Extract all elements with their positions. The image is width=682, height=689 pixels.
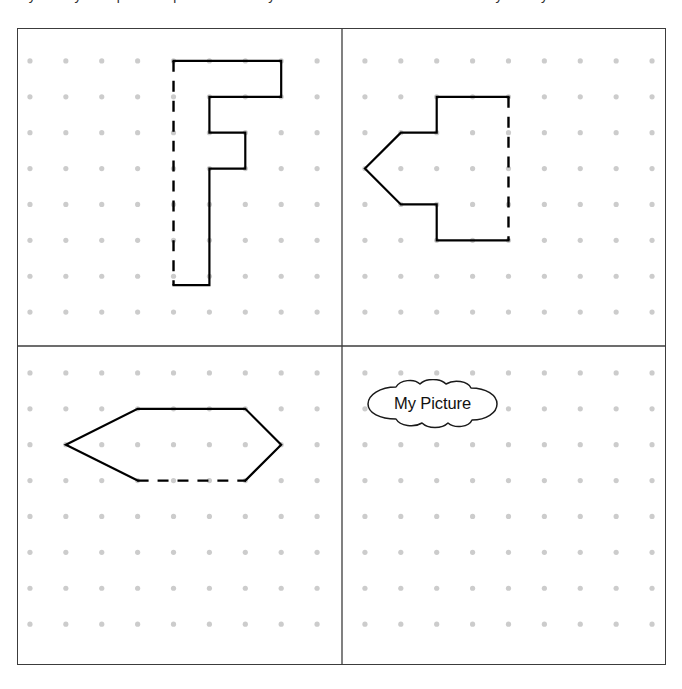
grid-dot — [649, 310, 654, 315]
grid-dot — [63, 586, 68, 591]
grid-dot — [649, 406, 654, 411]
grid-dot — [614, 622, 619, 627]
grid-dot — [578, 202, 583, 207]
grid-dot — [434, 442, 439, 447]
grid-dot — [578, 238, 583, 243]
grid-dot — [542, 94, 547, 99]
grid-dot — [135, 58, 140, 63]
grid-dot — [434, 478, 439, 483]
grid-dot — [135, 238, 140, 243]
grid-dot — [434, 274, 439, 279]
grid-dot — [362, 550, 367, 555]
grid-dot — [614, 58, 619, 63]
grid-dot — [542, 310, 547, 315]
grid-dot — [542, 406, 547, 411]
grid-dot — [27, 238, 32, 243]
grid-dot — [649, 622, 654, 627]
grid-dot — [398, 370, 403, 375]
grid-dot — [207, 370, 212, 375]
grid-dot — [614, 166, 619, 171]
grid-dot — [542, 274, 547, 279]
grid-dot — [362, 622, 367, 627]
grid-dot — [27, 166, 32, 171]
grid-dot — [27, 58, 32, 63]
grid-dot — [398, 274, 403, 279]
grid-dot — [27, 130, 32, 135]
grid-dot — [314, 310, 319, 315]
grid-dot — [578, 586, 583, 591]
grid-dot — [578, 442, 583, 447]
grid-dot — [614, 586, 619, 591]
grid-dot — [207, 442, 212, 447]
grid-dot — [27, 478, 32, 483]
grid-dot — [506, 370, 511, 375]
grid-dot — [314, 370, 319, 375]
grid-dot — [578, 550, 583, 555]
instruction-text: symmetry. Complete the picture so it is … — [22, 0, 551, 3]
grid-dot — [506, 58, 511, 63]
grid-dot — [27, 202, 32, 207]
grid-dot — [135, 514, 140, 519]
grid-dot — [279, 622, 284, 627]
grid-dot — [27, 406, 32, 411]
grid-dot — [99, 130, 104, 135]
grid-dot — [314, 406, 319, 411]
grid-dot — [99, 514, 104, 519]
grid-dot — [207, 586, 212, 591]
grid-dot — [243, 238, 248, 243]
grid-dot — [314, 202, 319, 207]
grid-dot — [27, 442, 32, 447]
grid-dot — [614, 514, 619, 519]
grid-dot — [434, 310, 439, 315]
grid-dot — [171, 370, 176, 375]
grid-dot — [542, 238, 547, 243]
grid-dot — [649, 94, 654, 99]
grid-dot — [243, 202, 248, 207]
grid-dot — [470, 442, 475, 447]
grid-dot — [63, 370, 68, 375]
grid-dot — [542, 622, 547, 627]
grid-dot — [135, 370, 140, 375]
instruction-strip: symmetry. Complete the picture so it is … — [0, 0, 682, 12]
grid-dot — [314, 238, 319, 243]
grid-dot — [63, 622, 68, 627]
grid-dot — [614, 370, 619, 375]
grid-dot — [578, 514, 583, 519]
grid-dot — [243, 310, 248, 315]
grid-dot — [279, 130, 284, 135]
grid-dot — [542, 370, 547, 375]
grid-dot — [470, 514, 475, 519]
grid-dot — [135, 622, 140, 627]
grid-dot — [470, 310, 475, 315]
grid-dot — [314, 442, 319, 447]
grid-dot — [314, 274, 319, 279]
grid-dot — [470, 202, 475, 207]
grid-dot — [649, 550, 654, 555]
grid-dot — [542, 166, 547, 171]
grid-dot — [398, 478, 403, 483]
grid-dot — [362, 478, 367, 483]
grid-dot — [279, 166, 284, 171]
grid-dot — [506, 514, 511, 519]
grid-dot — [135, 310, 140, 315]
grid-dot — [542, 586, 547, 591]
grid-dot — [434, 586, 439, 591]
grid-dot — [614, 550, 619, 555]
grid-dot — [542, 478, 547, 483]
grid-dot — [362, 586, 367, 591]
grid-dot — [649, 514, 654, 519]
grid-dot — [135, 586, 140, 591]
grid-dot — [63, 274, 68, 279]
grid-dot — [135, 550, 140, 555]
grid-dot — [99, 478, 104, 483]
grid-dot — [649, 478, 654, 483]
grid-dot — [27, 370, 32, 375]
grid-dot — [279, 550, 284, 555]
grid-dot — [398, 58, 403, 63]
grid-dot — [207, 310, 212, 315]
grid-dot — [279, 274, 284, 279]
grid-dot — [63, 310, 68, 315]
my-picture-label: My Picture — [366, 379, 499, 429]
grid-dot — [398, 238, 403, 243]
grid-dot — [542, 514, 547, 519]
